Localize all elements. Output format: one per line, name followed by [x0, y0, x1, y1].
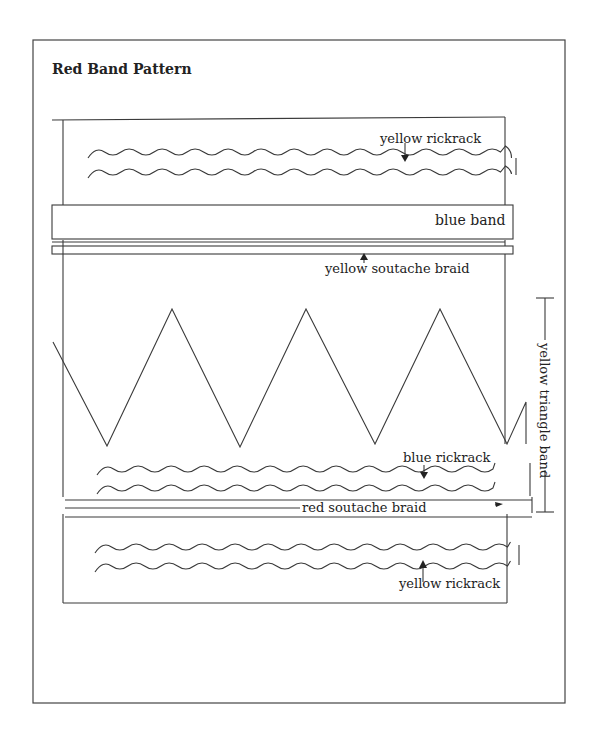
label-blue-rickrack: blue rickrack [403, 451, 490, 464]
label-red-soutache-braid: red soutache braid [301, 501, 427, 514]
label-blue-band: blue band [435, 213, 505, 227]
inner-panel [52, 117, 507, 603]
page-title: Red Band Pattern [52, 61, 192, 77]
label-bottom-yellow-rickrack: yellow rickrack [399, 577, 500, 590]
blue-rickrack [97, 463, 530, 496]
triangle-zigzag [53, 309, 526, 447]
red-soutache-braid [65, 497, 532, 517]
label-yellow-soutache-braid: yellow soutache braid [325, 262, 470, 275]
label-yellow-triangle-band: yellow triangle band [537, 343, 552, 478]
yellow-soutache-braid [52, 242, 513, 263]
pattern-diagram [0, 0, 597, 737]
label-top-yellow-rickrack: yellow rickrack [380, 132, 481, 145]
top-yellow-rickrack [88, 146, 516, 178]
